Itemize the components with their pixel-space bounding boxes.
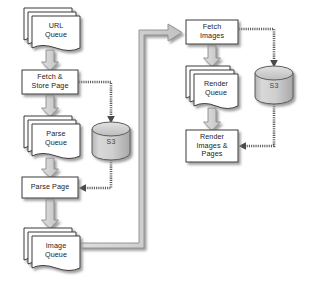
node-fetch-images[interactable]	[186, 20, 238, 44]
pipeline-diagram: URL Queue Fetch & Store Page Parse Queue…	[0, 0, 314, 291]
edge-parse-queue-to-parse-page	[42, 158, 59, 178]
edge-parse-page-to-image-queue	[42, 199, 59, 229]
node-s3-left[interactable]	[92, 122, 130, 160]
node-render-images-pages[interactable]	[186, 130, 238, 162]
node-url-queue[interactable]	[24, 8, 80, 51]
node-s3-right[interactable]	[255, 66, 293, 104]
edge-s3-right-to-render-images-pages	[239, 104, 275, 150]
edge-fetch-store-page-to-parse-queue	[42, 95, 59, 117]
edge-fetch-store-page-to-s3-left	[79, 82, 115, 124]
diagram-canvas	[0, 0, 314, 291]
node-parse-page[interactable]	[22, 177, 78, 198]
edge-s3-left-to-parse-page	[79, 160, 112, 192]
edge-fetch-images-to-s3-right	[239, 29, 278, 68]
edge-render-queue-to-render-images-pages	[204, 108, 221, 131]
node-parse-queue[interactable]	[24, 116, 80, 159]
edge-fetch-images-to-render-queue	[204, 45, 221, 67]
node-image-queue[interactable]	[24, 228, 80, 271]
node-fetch-store-page[interactable]	[22, 70, 78, 94]
edge-url-queue-to-fetch-store-page	[42, 50, 59, 71]
node-render-queue[interactable]	[186, 66, 238, 109]
